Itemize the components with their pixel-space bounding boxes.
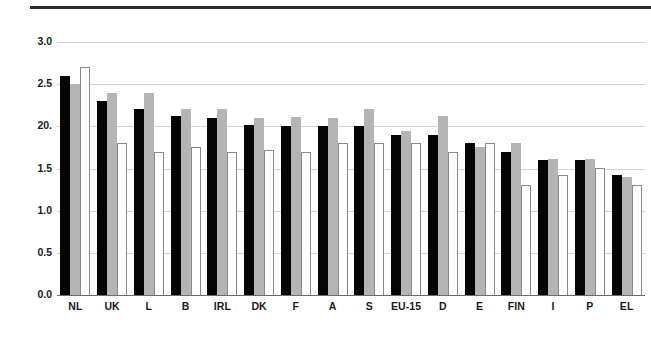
bar-series-2 (585, 159, 595, 295)
bar-series-1 (428, 135, 438, 295)
x-axis-tick-label: E (461, 300, 498, 312)
y-axis-tick-label: 3.0 (18, 35, 52, 47)
bar-series-1 (318, 126, 328, 296)
bar-group (57, 42, 94, 295)
y-axis-tick-label: 1.5 (18, 162, 52, 174)
bar-series-3 (632, 185, 642, 295)
bar-series-1 (171, 116, 181, 295)
y-axis-tick-label: 20. (18, 119, 52, 131)
bar-group (131, 42, 168, 295)
bar-series-1 (575, 160, 585, 295)
bar-series-3 (154, 152, 164, 295)
x-axis-tick-label: I (535, 300, 572, 312)
bar-group (241, 42, 278, 295)
bar-series-2 (328, 118, 338, 295)
bar-group (278, 42, 315, 295)
x-axis-tick-label: DK (241, 300, 278, 312)
y-axis-tick-label: 0.5 (18, 246, 52, 258)
bar-series-2 (144, 93, 154, 295)
bar-series-1 (612, 175, 622, 295)
bar-series-2 (548, 159, 558, 295)
x-axis-tick-label: A (314, 300, 351, 312)
bar-series-2 (511, 143, 521, 295)
axis-baseline (57, 295, 645, 296)
bar-group (388, 42, 425, 295)
bar-series-3 (411, 143, 421, 295)
bar-series-3 (264, 150, 274, 295)
x-axis-tick-label: F (278, 300, 315, 312)
bar-group (535, 42, 572, 295)
x-axis-tick-label: FIN (498, 300, 535, 312)
x-axis-tick-label: EL (608, 300, 645, 312)
x-axis-tick-label: P (572, 300, 609, 312)
bar-series-3 (595, 168, 605, 295)
bar-series-2 (622, 177, 632, 295)
bar-series-3 (301, 152, 311, 295)
x-axis-tick-label: UK (94, 300, 131, 312)
bar-series-2 (364, 109, 374, 295)
x-axis-tick-label: S (351, 300, 388, 312)
bar-series-2 (475, 147, 485, 295)
bar-series-1 (244, 125, 254, 295)
bar-group (351, 42, 388, 295)
y-axis-tick-label: 1.0 (18, 204, 52, 216)
top-rule (30, 6, 651, 9)
bar-series-1 (501, 152, 511, 295)
bar-series-3 (485, 143, 495, 295)
bar-series-1 (207, 118, 217, 295)
bar-series-2 (181, 109, 191, 295)
bar-group (425, 42, 462, 295)
bar-series-3 (117, 143, 127, 295)
bar-series-2 (107, 93, 117, 295)
bar-series-3 (227, 152, 237, 295)
bar-series-3 (558, 175, 568, 295)
bar-series-3 (80, 67, 90, 295)
bar-group (167, 42, 204, 295)
bar-group (204, 42, 241, 295)
bar-series-1 (465, 143, 475, 295)
bar-series-1 (97, 101, 107, 295)
bar-group (608, 42, 645, 295)
bar-groups (57, 42, 645, 295)
bar-group (461, 42, 498, 295)
bar-series-2 (217, 109, 227, 295)
bar-series-1 (60, 76, 70, 295)
x-axis-tick-label: NL (57, 300, 94, 312)
bar-series-2 (438, 116, 448, 295)
x-axis-tick-label: IRL (204, 300, 241, 312)
bar-series-3 (374, 143, 384, 295)
bar-series-1 (391, 135, 401, 295)
bar-series-1 (538, 160, 548, 295)
x-axis-tick-label: EU-15 (388, 300, 425, 312)
bar-group (94, 42, 131, 295)
bar-group (498, 42, 535, 295)
bar-series-1 (354, 126, 364, 296)
x-axis-tick-label: D (425, 300, 462, 312)
bar-series-1 (134, 109, 144, 295)
bar-series-1 (281, 126, 291, 295)
y-axis-tick-label: 0.0 (18, 288, 52, 300)
bar-series-2 (401, 131, 411, 295)
x-axis-tick-label: L (131, 300, 168, 312)
bar-series-2 (70, 84, 80, 295)
bar-series-3 (448, 152, 458, 295)
y-axis-tick-label: 2.5 (18, 77, 52, 89)
bar-series-2 (291, 117, 301, 295)
x-axis-tick-label: B (167, 300, 204, 312)
bar-group (314, 42, 351, 295)
chart-figure: 3.02.520.1.51.00.50.0 NLUKLBIRLDKFASEU-1… (0, 0, 651, 345)
bar-series-2 (254, 118, 264, 295)
bar-series-3 (191, 147, 201, 295)
x-axis-tick-labels: NLUKLBIRLDKFASEU-15DEFINIPEL (57, 300, 645, 312)
bar-series-3 (521, 185, 531, 295)
bar-series-3 (338, 143, 348, 295)
bar-group (572, 42, 609, 295)
